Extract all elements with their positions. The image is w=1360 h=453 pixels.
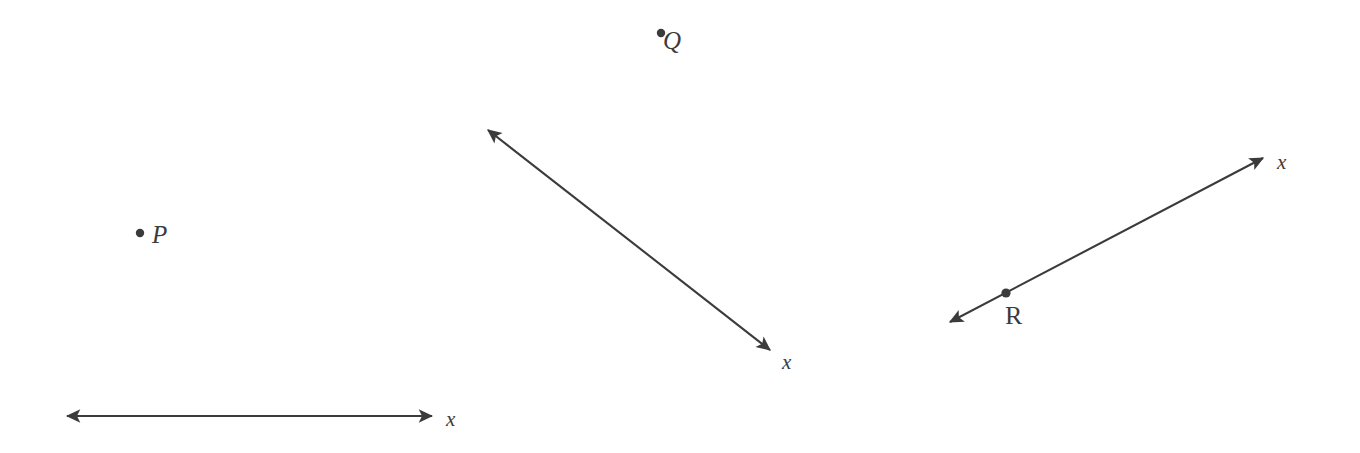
lines-group [67, 130, 1263, 416]
point-dot-r [1001, 288, 1010, 297]
ascending-diagonal-line [950, 158, 1263, 322]
axis-label-descending-diagonal-line: x [782, 352, 791, 373]
point-dot-p [136, 229, 144, 237]
point-label-p: P [152, 222, 167, 247]
point-label-r: R [1005, 303, 1022, 329]
figure-canvas [0, 0, 1360, 453]
axis-label-horizontal-line: x [446, 409, 455, 430]
geometry-figure: x x x P Q R [0, 0, 1360, 453]
point-label-q: Q [663, 28, 681, 53]
point-dots-group [136, 29, 1011, 298]
axis-label-ascending-diagonal-line: x [1277, 152, 1286, 173]
descending-diagonal-line [488, 130, 770, 350]
